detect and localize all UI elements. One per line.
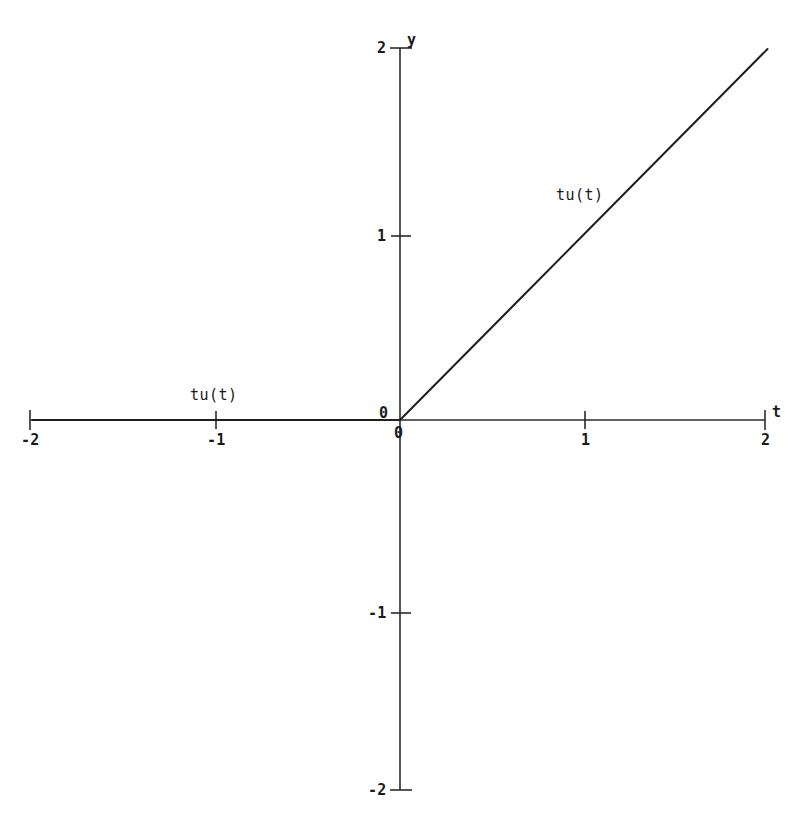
- origin-label-below: 0: [394, 426, 403, 441]
- x-tick-label-1: 1: [581, 433, 590, 448]
- x-tick-label--1: -1: [207, 433, 225, 448]
- series-label-right: tu(t): [556, 188, 604, 203]
- y-axis-label: y: [407, 33, 416, 48]
- x-axis-label: t: [772, 405, 781, 420]
- y-tick-label--1: -1: [368, 606, 386, 621]
- x-tick-label--2: -2: [21, 433, 39, 448]
- y-tick-label-2: 2: [377, 41, 386, 56]
- plot-area: [0, 0, 798, 826]
- y-tick-label--2: -2: [368, 783, 386, 798]
- y-tick-label-1: 1: [377, 229, 386, 244]
- x-tick-label-2: 2: [761, 433, 770, 448]
- series-label-left: tu(t): [190, 388, 238, 403]
- origin-label-left: 0: [379, 406, 388, 421]
- figure-canvas: t y -2 -1 1 2 2 1 -1 -2 0 0 tu(t) tu(t): [0, 0, 798, 826]
